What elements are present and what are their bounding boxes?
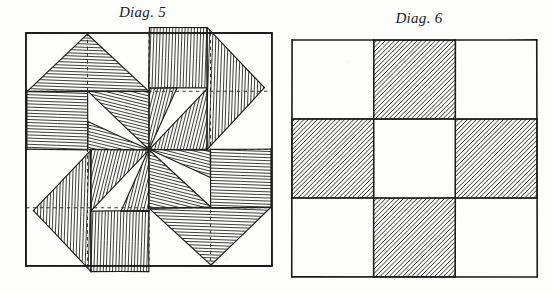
figure-6-drawing [285,0,553,294]
figure-diag-5: Diag. 5 [0,0,285,294]
figure-5-drawing [0,0,285,294]
page-root: Diag. 5 Diag. 6 [0,0,553,294]
figure-diag-6: Diag. 6 [285,0,553,294]
